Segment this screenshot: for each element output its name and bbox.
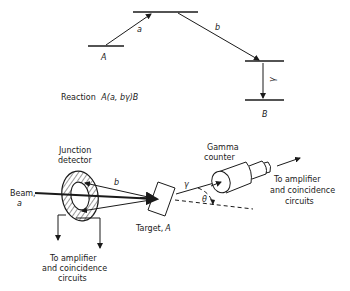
transition-b-arrow [178,13,259,60]
gamma-counter-icon [209,161,271,195]
left-output-line-3: circuits [58,274,87,283]
left-output-line-2: and coincidence [42,264,107,273]
left-output-line-1: To amplifier [49,254,97,263]
right-output-line-1: To amplifier [273,175,321,184]
beam-particle-label: a [17,199,22,208]
right-output-line-3: circuits [285,197,314,206]
beam-label: Beam, [10,189,36,198]
apparatus-diagram: Junction detector Beam, a b Target,A γ θ [10,143,335,283]
level-B-label: B [262,110,268,119]
target-label: Target,A [135,224,171,233]
junction-detector-label-1: Junction [58,146,91,155]
transition-a-label: a [137,25,142,34]
gamma-counter-label-2: counter [204,153,235,162]
gamma-output-arrow [277,158,300,166]
gamma-label: γ [184,180,190,189]
transition-a-arrow [106,14,151,45]
gamma-counter-label-1: Gamma [207,143,239,152]
right-output-line-2: and coincidence [270,186,335,195]
junction-detector-label-2: detector [58,156,92,165]
level-A-label: A [100,53,106,62]
energy-level-diagram: A a b γ B Reaction A(a, bγ)B [61,12,284,119]
theta-label: θ [202,195,207,204]
nuclear-reaction-diagram: A a b γ B Reaction A(a, bγ)B Junction de… [0,0,350,291]
reaction-label: Reaction A(a, bγ)B [61,93,138,102]
transition-b-label: b [215,23,220,32]
detector-output-lead-2 [76,218,100,248]
particle-b-label: b [114,178,119,187]
transition-gamma-label: γ [268,76,277,82]
